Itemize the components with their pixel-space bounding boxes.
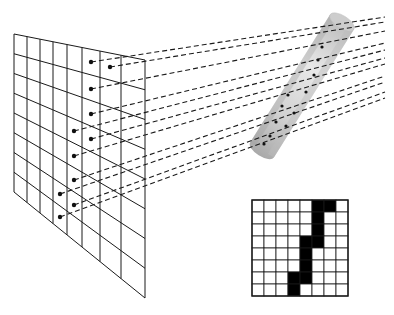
- cylinder-hit-dot: [292, 111, 295, 114]
- pixel-cell: [264, 236, 276, 248]
- pixel-cell: [300, 212, 312, 224]
- pixel-cell: [276, 200, 288, 212]
- pixel-cell: [252, 224, 264, 236]
- pixel-cell: [264, 260, 276, 272]
- projection-ray: [91, 43, 385, 114]
- projection-dot: [72, 154, 76, 158]
- pixel-cell: [276, 224, 288, 236]
- pixel-cell: [312, 200, 324, 212]
- projection-dot: [72, 178, 76, 182]
- grid-line-horizontal: [14, 54, 145, 90]
- pixel-cell: [264, 248, 276, 260]
- projection-dot: [58, 192, 62, 196]
- cylinder-object: [247, 9, 357, 163]
- pixel-cell: [336, 284, 348, 296]
- pixel-cell: [288, 236, 300, 248]
- cylinder-hit-dot: [268, 134, 271, 137]
- pixel-cell: [300, 284, 312, 296]
- projection-dot: [89, 112, 93, 116]
- cylinder-hit-dot: [312, 73, 315, 76]
- pixel-cell: [252, 200, 264, 212]
- pixel-cell: [312, 272, 324, 284]
- pixel-cell: [336, 200, 348, 212]
- pixel-cell: [336, 212, 348, 224]
- pixel-cell: [252, 272, 264, 284]
- pixel-cell: [324, 260, 336, 272]
- pixel-cell: [312, 212, 324, 224]
- projection-ray: [91, 58, 385, 139]
- cylinder-hit-dot: [280, 104, 283, 107]
- pixel-cell: [336, 224, 348, 236]
- pixel-cell: [312, 248, 324, 260]
- pixel-cell: [300, 200, 312, 212]
- pixel-cell: [300, 236, 312, 248]
- grid-line-horizontal: [14, 172, 145, 268]
- pixel-cell: [264, 212, 276, 224]
- cylinder-hit-dot: [320, 45, 323, 48]
- pixel-cell: [252, 284, 264, 296]
- pixel-cell: [276, 272, 288, 284]
- grid-line-horizontal: [14, 34, 145, 60]
- pixel-cell: [264, 224, 276, 236]
- pixel-cell: [252, 212, 264, 224]
- cylinder-hit-dot: [286, 93, 289, 96]
- projection-dot: [72, 203, 76, 207]
- pixel-cell: [252, 260, 264, 272]
- pixel-cell: [264, 200, 276, 212]
- grid-line-horizontal: [14, 113, 145, 179]
- pixel-cell: [336, 260, 348, 272]
- projection-dot: [108, 65, 112, 69]
- pixel-cell: [252, 248, 264, 260]
- pixel-cell: [324, 200, 336, 212]
- pixel-cell: [276, 260, 288, 272]
- pixel-cell: [288, 272, 300, 284]
- pixel-cell: [312, 260, 324, 272]
- pixel-cell: [288, 212, 300, 224]
- grid-line-horizontal: [14, 133, 145, 209]
- pixel-cell: [324, 236, 336, 248]
- pixel-cell: [288, 248, 300, 260]
- pixel-cell: [336, 272, 348, 284]
- cylinder-body: [247, 9, 357, 163]
- cylinder-hit-dot: [262, 142, 265, 145]
- pixel-cell: [276, 248, 288, 260]
- pixel-cell: [300, 248, 312, 260]
- pixel-cell: [324, 248, 336, 260]
- projection-dot: [58, 215, 62, 219]
- pixel-cell: [324, 284, 336, 296]
- projection-dot: [89, 60, 93, 64]
- pixel-cell: [288, 284, 300, 296]
- pixel-cell: [264, 272, 276, 284]
- pixel-cell: [300, 224, 312, 236]
- pixel-cell: [336, 248, 348, 260]
- cylinder-hit-dot: [284, 124, 287, 127]
- cylinder-hit-dot: [304, 90, 307, 93]
- pixel-cell: [288, 224, 300, 236]
- pixel-cell: [336, 236, 348, 248]
- projection-ray: [60, 82, 385, 194]
- grid-line-horizontal: [14, 153, 145, 239]
- grid-line-horizontal: [14, 192, 145, 298]
- cylinder-hit-dot: [316, 58, 319, 61]
- pixel-cell: [324, 272, 336, 284]
- projection-dot: [89, 137, 93, 141]
- cylinder-projection-diagram: [0, 0, 394, 315]
- grid-line-horizontal: [14, 93, 145, 149]
- pixel-image-grid: [252, 200, 348, 296]
- pixel-cell: [312, 224, 324, 236]
- projection-dot: [89, 87, 93, 91]
- projection-grid: [14, 34, 145, 298]
- pixel-cell: [324, 224, 336, 236]
- cylinder-hit-dot: [274, 120, 277, 123]
- pixel-cell: [288, 260, 300, 272]
- pixel-cell: [300, 260, 312, 272]
- pixel-cell: [312, 236, 324, 248]
- pixel-cell: [276, 212, 288, 224]
- projection-dot: [72, 129, 76, 133]
- pixel-cell: [252, 236, 264, 248]
- pixel-cell: [264, 284, 276, 296]
- pixel-cell: [276, 236, 288, 248]
- pixel-cell: [276, 284, 288, 296]
- pixel-cell: [324, 212, 336, 224]
- projection-ray: [60, 98, 385, 217]
